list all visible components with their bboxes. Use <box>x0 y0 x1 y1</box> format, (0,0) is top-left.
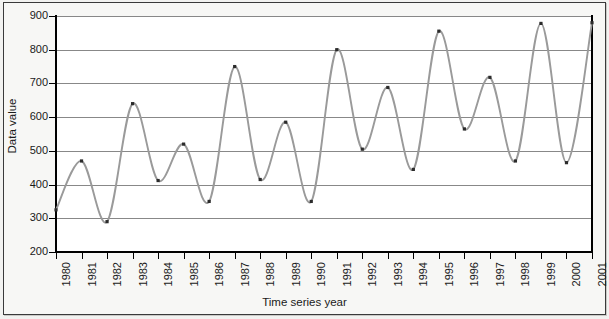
x-tick-label: 1987 <box>240 262 251 286</box>
x-tick-label: 1986 <box>214 262 225 286</box>
x-tick-label: 1995 <box>444 262 455 286</box>
plot-right-border <box>591 15 593 253</box>
x-tick-label: 1997 <box>495 262 506 286</box>
x-axis-title: Time series year <box>0 296 609 308</box>
x-tick-mark <box>439 253 440 259</box>
gridline <box>56 218 592 219</box>
chart-figure: 200300400500600700800900 198019811982198… <box>0 0 609 319</box>
x-tick-label: 1989 <box>291 262 302 286</box>
x-tick-label: 1990 <box>316 262 327 286</box>
y-tick-label: 200 <box>0 246 48 257</box>
x-tick-label: 1984 <box>163 262 174 286</box>
y-tick-label: 800 <box>0 44 48 55</box>
x-tick-label: 2000 <box>571 262 582 286</box>
gridline <box>56 117 592 118</box>
x-tick-label: 2001 <box>597 262 608 286</box>
x-tick-label: 1983 <box>138 262 149 286</box>
x-tick-mark <box>286 253 287 259</box>
x-tick-mark <box>56 253 57 259</box>
x-tick-label: 1993 <box>393 262 404 286</box>
x-tick-label: 1994 <box>418 262 429 286</box>
x-tick-mark <box>566 253 567 259</box>
x-tick-mark <box>158 253 159 259</box>
x-tick-mark <box>209 253 210 259</box>
x-tick-mark <box>490 253 491 259</box>
x-tick-mark <box>184 253 185 259</box>
x-tick-label: 1999 <box>546 262 557 286</box>
x-tick-label: 1998 <box>520 262 531 286</box>
gridline <box>56 50 592 51</box>
gridline <box>56 185 592 186</box>
x-tick-mark <box>515 253 516 259</box>
gridline <box>56 83 592 84</box>
y-tick-label-text: 200 <box>4 246 48 257</box>
y-axis-line <box>55 15 57 253</box>
x-tick-mark <box>388 253 389 259</box>
x-tick-mark <box>337 253 338 259</box>
y-tick-label: 300 <box>0 212 48 223</box>
x-tick-mark <box>413 253 414 259</box>
x-tick-label: 1981 <box>87 262 98 286</box>
x-tick-label: 1988 <box>265 262 276 286</box>
y-tick-label-text: 300 <box>4 212 48 223</box>
x-tick-mark <box>133 253 134 259</box>
x-tick-label: 1980 <box>61 262 72 286</box>
plot-area <box>56 16 592 252</box>
x-tick-mark <box>592 253 593 259</box>
gridline <box>56 16 592 17</box>
x-tick-mark <box>541 253 542 259</box>
y-tick-label: 900 <box>0 10 48 21</box>
x-tick-mark <box>464 253 465 259</box>
gridline <box>56 151 592 152</box>
y-tick-label-text: 800 <box>4 44 48 55</box>
x-tick-mark <box>260 253 261 259</box>
x-tick-label: 1982 <box>112 262 123 286</box>
x-tick-label: 1992 <box>367 262 378 286</box>
x-tick-mark <box>311 253 312 259</box>
x-tick-label: 1991 <box>342 262 353 286</box>
x-tick-mark <box>107 253 108 259</box>
x-tick-mark <box>235 253 236 259</box>
x-tick-label: 1985 <box>189 262 200 286</box>
y-tick-label-text: 900 <box>4 10 48 21</box>
y-axis-title: Data value <box>6 66 18 186</box>
x-tick-mark <box>362 253 363 259</box>
x-axis-line <box>55 251 593 253</box>
x-tick-label: 1996 <box>469 262 480 286</box>
x-tick-mark <box>82 253 83 259</box>
